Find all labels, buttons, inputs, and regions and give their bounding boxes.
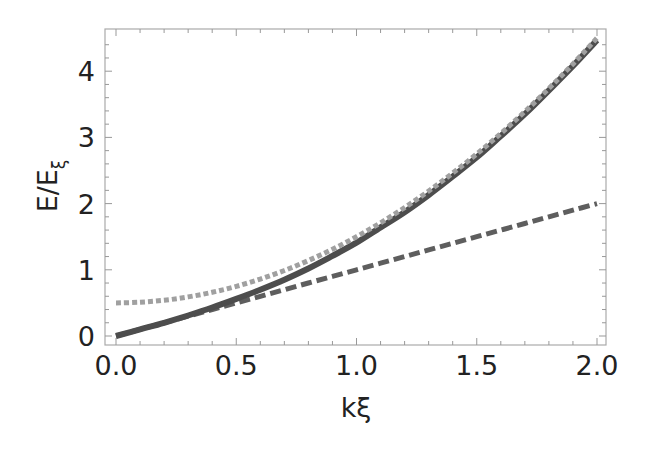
y-tick-label: 1 <box>78 255 95 286</box>
x-tick-label: 1.5 <box>455 350 498 381</box>
y-tick-label: 3 <box>78 122 95 153</box>
x-tick-label: 0.5 <box>215 350 258 381</box>
y-tick-label: 0 <box>78 321 95 352</box>
y-tick-label: 2 <box>78 189 95 220</box>
x-tick-label: 2.0 <box>576 350 619 381</box>
series-dotted-line <box>116 38 597 303</box>
series-solid-line <box>116 40 597 336</box>
x-tick-label: 1.0 <box>335 350 378 381</box>
svg-text:E/Eξ: E/Eξ <box>32 160 69 213</box>
y-axis-label: E/Eξ <box>32 160 69 213</box>
y-tick-label: 4 <box>78 56 95 87</box>
x-tick-label: 0.0 <box>95 350 138 381</box>
chart: 0.00.51.01.52.001234 kξ E/Eξ <box>0 0 651 449</box>
x-axis-label: kξ <box>341 392 372 423</box>
